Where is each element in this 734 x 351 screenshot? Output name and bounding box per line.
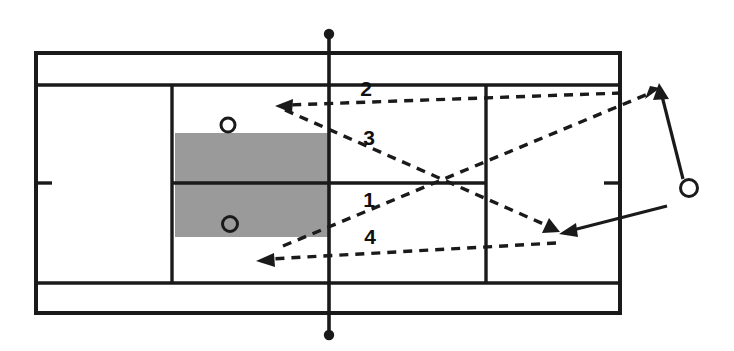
player-move-down-left: [559, 206, 667, 237]
player-move-down-left-arrowhead: [559, 223, 578, 237]
court-diagram: 2 3 1 4: [0, 0, 734, 351]
shuttle-path-3-arrowhead: [542, 218, 560, 233]
shuttle-marker-upper: [221, 118, 235, 132]
shuttle-path-4: [256, 243, 556, 267]
net-post-top-dot: [324, 29, 334, 39]
player-marker-outside: [681, 180, 698, 197]
shot-label-4: 4: [364, 225, 376, 248]
shot-label-3: 3: [363, 126, 375, 149]
shot-label-2: 2: [360, 77, 372, 100]
shaded-target-zone: [175, 133, 330, 237]
player-move-up-arrowhead: [653, 83, 669, 100]
net-post-bottom-dot: [324, 330, 334, 340]
court-diagram-svg: 2 3 1 4: [0, 0, 734, 351]
player-move-up: [653, 83, 683, 179]
shuttle-path-2: [275, 93, 621, 113]
shot-label-1: 1: [363, 188, 375, 211]
shuttle-path-4-arrowhead: [256, 253, 275, 267]
